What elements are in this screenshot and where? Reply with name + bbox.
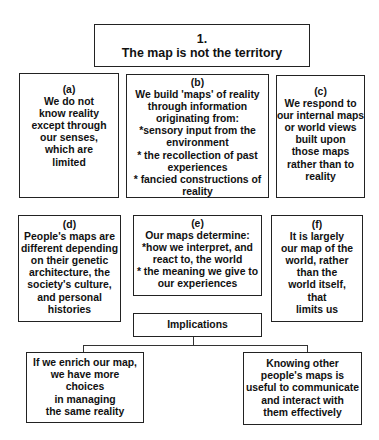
box-e-line: react to, the world	[153, 254, 243, 266]
box-f: (f) It is largely our map of the world, …	[271, 215, 363, 322]
connector-right-drop	[307, 345, 308, 352]
box-b-line: reality	[182, 186, 213, 198]
box-d-line: People's maps are	[24, 231, 115, 243]
box-e-line: *how we interpret, and	[142, 242, 253, 254]
box-f-line: limits us	[296, 304, 338, 316]
box-c-line: We respond to	[285, 98, 357, 110]
implication-right-line: Knowing other	[266, 358, 339, 370]
box-c-line: or world views	[284, 122, 356, 134]
box-f-line: our map of the	[281, 243, 353, 255]
box-e-line: * the meaning we give to	[137, 266, 258, 278]
box-d-line: histories	[48, 304, 91, 316]
box-f-line: world, rather	[286, 255, 349, 267]
box-a: (a) We do not know reality except throug…	[19, 73, 119, 198]
box-b-line: We build 'maps' of reality	[135, 89, 259, 101]
box-b-line: through information	[148, 101, 247, 113]
box-f-line: that	[307, 292, 326, 304]
box-e-label: (e)	[191, 218, 204, 230]
box-c-line: our internal maps	[277, 110, 364, 122]
box-b-line: *sensory input from the	[139, 125, 256, 137]
box-d-label: (d)	[63, 219, 76, 231]
box-b-line: originating from:	[156, 113, 239, 125]
implication-left-line: the same reality	[46, 406, 125, 418]
title-text: The map is not the territory	[122, 46, 282, 60]
box-c: (c) We respond to our internal maps or w…	[276, 75, 365, 198]
box-c-line: built upon	[295, 134, 345, 146]
box-d-line: and personal	[37, 292, 102, 304]
box-f-label: (f)	[312, 219, 322, 231]
box-b-label: (b)	[191, 77, 204, 89]
box-a-line: which are	[45, 144, 93, 156]
box-b-line: * fancied constructions of	[134, 174, 262, 186]
box-c-line: rather than to	[287, 159, 354, 171]
box-a-line: We do not	[44, 96, 94, 108]
implication-other-maps-box: Knowing other people's maps is useful to…	[243, 352, 362, 425]
box-d-line: different depending	[21, 243, 118, 255]
implication-left-line: If we enrich our map,	[33, 357, 137, 369]
implication-right-line: and interact with	[261, 395, 344, 407]
implications-label: Implications	[167, 319, 228, 331]
implication-enrich-map-box: If we enrich our map, we have more choic…	[26, 352, 144, 423]
box-f-line: It is largely	[290, 231, 344, 243]
box-d-line: on their genetic	[31, 255, 108, 267]
box-b-line: * the recollection of past	[137, 150, 258, 162]
title-box: 1. The map is not the territory	[94, 24, 310, 67]
box-f-line: than the	[297, 267, 337, 279]
connector-horizontal	[83, 345, 308, 346]
box-d-line: society's culture,	[27, 279, 111, 291]
implication-right-line: people's maps is	[261, 370, 344, 382]
box-e-line: Our maps determine:	[145, 230, 250, 242]
box-f-line: world itself,	[288, 279, 346, 291]
implication-left-line: we have more	[51, 369, 120, 381]
box-b-line: environment	[166, 137, 228, 149]
title-number: 1.	[197, 32, 207, 46]
box-d: (d) People's maps are different dependin…	[18, 215, 121, 322]
box-c-line: reality	[305, 171, 336, 183]
implication-left-line: choices	[66, 381, 105, 393]
box-e: (e) Our maps determine: *how we interpre…	[133, 215, 262, 296]
box-b-line: experiences	[167, 162, 227, 174]
implication-right-line: useful to communicate	[246, 382, 359, 394]
implication-left-line: in managing	[54, 394, 115, 406]
box-e-line: our experiences	[158, 278, 238, 290]
connector-left-drop	[83, 345, 84, 352]
box-c-line: those maps	[292, 146, 350, 158]
box-b: (b) We build 'maps' of reality through i…	[126, 74, 269, 198]
box-a-line: our senses,	[40, 132, 98, 144]
box-a-line: know reality	[39, 108, 99, 120]
box-a-label: (a)	[63, 84, 76, 96]
connector-implications-stem	[193, 337, 194, 345]
implication-right-line: them effectively	[263, 407, 342, 419]
implications-box: Implications	[133, 313, 262, 337]
box-d-line: architecture, the	[29, 267, 110, 279]
box-a-line: limited	[52, 157, 86, 169]
box-a-line: except through	[31, 120, 106, 132]
box-c-label: (c)	[314, 86, 327, 98]
